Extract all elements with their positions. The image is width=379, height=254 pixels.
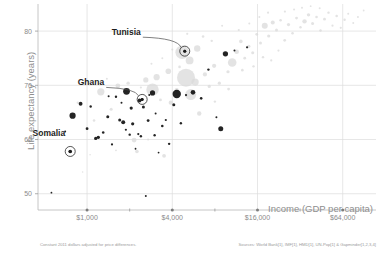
data-point xyxy=(126,81,129,84)
data-point xyxy=(172,103,175,106)
data-point xyxy=(215,116,217,118)
data-point xyxy=(248,23,250,25)
data-point xyxy=(125,129,127,131)
data-point xyxy=(161,125,164,128)
data-point xyxy=(218,126,223,131)
data-point xyxy=(267,12,269,14)
data-point xyxy=(118,119,121,122)
data-point xyxy=(171,49,173,51)
data-point xyxy=(169,101,173,105)
data-point xyxy=(82,171,84,173)
x-tick-label: $64,000 xyxy=(330,214,355,221)
data-point xyxy=(162,154,166,158)
data-point xyxy=(226,70,229,73)
data-point xyxy=(227,88,230,91)
data-point xyxy=(302,19,306,23)
data-point xyxy=(111,143,113,145)
data-point xyxy=(166,68,172,74)
callout-leader-line xyxy=(143,37,181,47)
data-point xyxy=(301,7,303,9)
data-point xyxy=(165,119,167,121)
data-point xyxy=(214,100,216,102)
data-point xyxy=(223,51,228,56)
data-point xyxy=(258,16,260,18)
callout-center-dot xyxy=(141,98,144,101)
callout-annotations-group: TunisiaGhanaSomalia xyxy=(33,27,190,156)
data-point xyxy=(270,59,272,61)
data-point xyxy=(331,25,333,27)
data-point xyxy=(202,35,205,38)
data-point xyxy=(173,90,181,98)
data-point xyxy=(132,138,137,143)
data-point xyxy=(252,65,254,67)
data-point xyxy=(140,86,142,88)
data-point xyxy=(291,32,294,35)
callout-label-somalia: Somalia xyxy=(33,128,66,138)
data-point xyxy=(212,64,216,68)
data-point xyxy=(255,33,258,36)
data-point xyxy=(161,57,163,59)
data-point xyxy=(121,120,125,124)
data-point xyxy=(284,10,286,12)
data-point xyxy=(115,96,117,98)
data-point xyxy=(185,94,187,96)
data-point xyxy=(148,94,150,96)
data-point xyxy=(319,29,321,31)
data-point xyxy=(108,95,110,97)
y-tick-label: 80 xyxy=(24,28,32,35)
dark-bubbles-group xyxy=(51,46,249,197)
data-point xyxy=(150,63,152,65)
data-point xyxy=(211,40,213,42)
data-point xyxy=(97,136,100,139)
data-point xyxy=(77,101,79,103)
data-point xyxy=(203,72,207,76)
data-point xyxy=(194,45,200,51)
data-point xyxy=(262,56,264,58)
data-point xyxy=(159,99,162,102)
data-point xyxy=(259,42,262,45)
data-point xyxy=(178,66,181,69)
data-point xyxy=(295,17,298,20)
data-point xyxy=(51,192,53,194)
data-point xyxy=(311,22,314,25)
data-point xyxy=(293,8,295,10)
y-axis-title: Life expectancy (years) xyxy=(25,52,36,150)
data-point xyxy=(153,134,155,136)
data-point xyxy=(115,83,120,88)
data-point xyxy=(228,58,237,67)
data-point xyxy=(200,97,203,100)
data-point xyxy=(352,22,354,24)
data-point xyxy=(335,15,338,18)
data-point xyxy=(208,85,211,88)
data-point xyxy=(86,127,89,130)
data-point xyxy=(120,102,122,104)
callout-label-tunisia: Tunisia xyxy=(112,27,141,37)
x-tick-label: $16,000 xyxy=(245,214,270,221)
data-point xyxy=(106,115,109,118)
data-point xyxy=(97,88,104,95)
data-point xyxy=(147,119,150,122)
data-point xyxy=(363,10,365,12)
data-point xyxy=(233,50,235,52)
data-point xyxy=(186,33,188,35)
data-point xyxy=(115,149,117,151)
data-point xyxy=(135,148,137,150)
data-point xyxy=(238,29,240,31)
data-point xyxy=(154,74,160,80)
data-point xyxy=(343,19,345,21)
data-point xyxy=(93,119,96,122)
data-point xyxy=(267,34,270,37)
data-point xyxy=(150,90,155,95)
data-point xyxy=(102,131,105,134)
data-point xyxy=(197,111,201,115)
callout-label-ghana: Ghana xyxy=(78,77,105,87)
data-point xyxy=(191,90,196,95)
data-point xyxy=(142,106,145,109)
data-point xyxy=(168,143,170,145)
callout-center-dot xyxy=(183,50,186,53)
data-point xyxy=(140,135,142,137)
data-point xyxy=(131,122,134,125)
data-point xyxy=(79,102,83,106)
data-point xyxy=(323,18,326,21)
data-point xyxy=(69,113,75,119)
